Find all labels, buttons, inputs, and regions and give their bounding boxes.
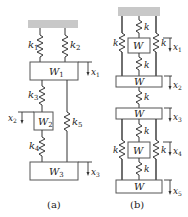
spring-b-center-2: k — [136, 53, 149, 76]
figure-b: k k k W x1 k — [113, 7, 182, 210]
spring-b-center-5: k — [136, 158, 149, 180]
displacement-b-x3-label: x3 — [173, 112, 182, 123]
ground-support-a — [28, 20, 78, 28]
mass-b-2: W — [116, 76, 162, 87]
mass-b-5-label: W — [134, 181, 145, 192]
displacement-b-x1-label: x1 — [173, 42, 182, 53]
mass-b-4-label: W — [133, 145, 144, 156]
displacement-b-x2-label: x2 — [173, 80, 182, 91]
mass-w2: W2 — [34, 112, 53, 130]
spring-b-center-3-label: k — [144, 92, 149, 102]
spring-b-left-2-label: k — [113, 145, 118, 155]
spring-k3: k3 — [28, 80, 45, 112]
displacement-b-x4-label: x4 — [173, 146, 182, 157]
spring-k5: k5 — [64, 80, 83, 162]
spring-k3-label: k3 — [28, 89, 39, 102]
mass-b-4: W — [128, 142, 150, 158]
mass-w1: W1 — [30, 62, 78, 80]
displacement-x2-arrow: x2 — [8, 112, 34, 124]
spring-k2-label: k2 — [70, 39, 81, 52]
spring-b-left-1-label: k — [113, 38, 118, 48]
spring-b-center-1-label: k — [144, 22, 149, 32]
spring-k2: k2 — [62, 28, 81, 62]
spring-k1: k1 — [28, 28, 43, 62]
spring-b-center-4: k — [136, 119, 149, 142]
displacement-x1-arrow: x1 — [78, 62, 100, 78]
displacement-x3-arrow: x3 — [78, 162, 100, 178]
displacement-x3-label: x3 — [91, 167, 100, 178]
spring-b-center-1: k — [136, 16, 149, 38]
mass-w3: W3 — [30, 162, 78, 180]
mass-b-1: W — [128, 38, 150, 53]
mass-b-3: W — [116, 108, 162, 119]
spring-b-center-3: k — [136, 87, 149, 108]
displacement-x1-label: x1 — [91, 67, 100, 78]
spring-b-center-2-label: k — [144, 60, 149, 70]
displacement-b-x2-arrow: x2 — [164, 76, 182, 91]
caption-a: (a) — [47, 199, 61, 210]
spring-k5-label: k5 — [72, 116, 83, 129]
spring-b-right-1: k — [153, 33, 166, 76]
caption-b: (b) — [130, 199, 144, 210]
mass-b-2-label: W — [134, 76, 145, 87]
mass-b-1-label: W — [133, 40, 144, 51]
spring-b-left-1: k — [113, 33, 125, 76]
displacement-b-x5-label: x5 — [173, 186, 182, 197]
ground-support-b — [118, 7, 160, 16]
spring-b-right-2-label: k — [161, 145, 166, 155]
spring-b-right-2: k — [153, 140, 166, 180]
figure-a: k1 k2 W1 x1 k3 k5 — [8, 20, 100, 210]
spring-b-left-2: k — [113, 140, 125, 180]
spring-mass-diagram: k1 k2 W1 x1 k3 k5 — [0, 0, 188, 217]
spring-b-right-1-label: k — [161, 38, 166, 48]
spring-k4: k4 — [29, 130, 45, 162]
mass-b-5: W — [116, 180, 162, 193]
displacement-b-x5-arrow: x5 — [164, 180, 182, 197]
mass-b-3-label: W — [134, 108, 145, 119]
displacement-x2-label: x2 — [8, 113, 17, 124]
spring-k1-label: k1 — [28, 39, 39, 52]
displacement-b-x3-arrow: x3 — [164, 108, 182, 123]
spring-b-center-5-label: k — [144, 164, 149, 174]
spring-b-center-4-label: k — [144, 126, 149, 136]
